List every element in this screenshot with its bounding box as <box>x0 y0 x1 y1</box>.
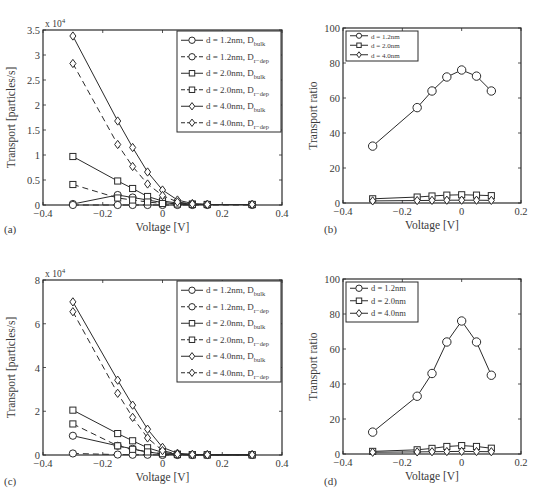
circle-marker-icon <box>368 428 376 436</box>
circle-marker-icon <box>428 369 436 377</box>
legend: d = 1.2nm, Dbulkd = 1.2nm, Dr−depd = 2.0… <box>177 281 281 382</box>
diamond-marker-icon <box>115 389 121 397</box>
y-tick-label: 40 <box>330 379 341 390</box>
x-axis-label: Voltage [V] <box>136 471 190 484</box>
legend-label-subscript: r−dep <box>254 373 269 380</box>
y-tick-label: 6 <box>35 319 40 330</box>
x-tick-label: 0 <box>160 458 165 469</box>
legend-label-subscript: bulk <box>254 356 266 363</box>
legend-label-subscript: bulk <box>254 73 266 80</box>
circle-marker-icon <box>443 338 451 346</box>
x-tick-label: −0.2 <box>93 208 112 219</box>
y-tick-label: 60 <box>330 93 341 104</box>
diamond-marker-icon <box>145 180 151 188</box>
y-axis-label: Transport [particles/s] <box>5 67 18 168</box>
circle-marker-icon <box>487 371 495 379</box>
legend: d = 1.2nm, Dbulkd = 1.2nm, Dr−depd = 2.0… <box>177 31 281 132</box>
y-tick-label: 4 <box>35 363 41 374</box>
panel-label: (c) <box>4 475 17 488</box>
circle-marker-icon <box>472 72 480 80</box>
y-tick-label: 3 <box>35 50 40 61</box>
square-marker-icon <box>356 298 361 303</box>
legend-label-subscript: r−dep <box>254 307 269 314</box>
data-series <box>368 317 495 437</box>
y-tick-label: 2.5 <box>27 75 40 86</box>
y-tick-label: 20 <box>330 414 341 425</box>
legend-label: d = 1.2nm <box>371 33 400 41</box>
circle-marker-icon <box>413 392 421 400</box>
square-marker-icon <box>130 446 136 452</box>
y-tick-label: 0 <box>35 450 40 461</box>
circle-marker-icon <box>472 338 480 346</box>
x-tick-label: −0.2 <box>393 457 412 468</box>
square-marker-icon <box>70 421 76 427</box>
square-marker-icon <box>115 431 121 437</box>
circle-marker-icon <box>189 304 195 310</box>
y-tick-label: 2 <box>35 100 40 111</box>
square-marker-icon <box>70 181 76 187</box>
series-line <box>373 70 492 146</box>
circle-marker-icon <box>457 66 465 74</box>
y-tick-label: 0 <box>335 198 340 209</box>
circle-marker-icon <box>114 451 121 458</box>
data-series <box>368 66 495 151</box>
circle-marker-icon <box>189 37 195 43</box>
square-marker-icon <box>130 185 136 191</box>
diamond-marker-icon <box>70 32 76 40</box>
circle-marker-icon <box>457 317 465 325</box>
square-marker-icon <box>145 199 151 205</box>
legend-label-subscript: r−dep <box>254 90 269 97</box>
chart-panel-a: −0.4−0.200.20.400.511.522.533.5x 104Volt… <box>4 17 289 236</box>
x-tick-label: 0.2 <box>216 458 229 469</box>
legend: d = 1.2nmd = 2.0nmd = 4.0nm <box>346 31 418 61</box>
y-multiplier: x 104 <box>45 17 66 29</box>
square-marker-icon <box>357 43 361 47</box>
x-tick-label: 0 <box>160 208 165 219</box>
y-axis-label: Transport ratio <box>307 81 320 150</box>
y-multiplier-exponent: 4 <box>62 17 66 25</box>
square-marker-icon <box>189 71 194 76</box>
y-tick-label: 80 <box>330 58 341 69</box>
circle-marker-icon <box>356 33 361 38</box>
circle-marker-icon <box>368 142 376 150</box>
x-tick-label: 0.2 <box>514 206 527 217</box>
panel-label: (b) <box>324 223 337 236</box>
x-tick-label: 0 <box>459 457 464 468</box>
x-axis-label: Voltage [V] <box>405 470 459 483</box>
y-tick-label: 0 <box>35 200 40 211</box>
diamond-marker-icon <box>115 140 121 148</box>
data-series <box>370 447 495 456</box>
circle-marker-icon <box>69 432 76 439</box>
data-series <box>370 196 495 205</box>
y-tick-label: 1.5 <box>27 125 40 136</box>
y-tick-label: 0 <box>335 449 340 460</box>
legend-label: d = 1.2nm <box>371 283 406 293</box>
y-tick-label: 80 <box>330 309 341 320</box>
square-marker-icon <box>189 337 194 342</box>
x-axis-label: Voltage [V] <box>136 221 190 234</box>
y-tick-label: 20 <box>330 163 341 174</box>
legend-label: d = 2.0nm <box>371 42 400 50</box>
y-tick-label: 3.5 <box>27 25 40 36</box>
y-axis-label: Transport ratio <box>307 332 320 401</box>
legend-label-subscript: bulk <box>254 106 266 113</box>
panel-label: (d) <box>324 475 337 488</box>
circle-marker-icon <box>356 285 362 291</box>
y-tick-label: 100 <box>324 274 340 285</box>
y-multiplier: x 104 <box>45 267 66 279</box>
legend-label-subscript: r−dep <box>254 340 269 347</box>
square-marker-icon <box>189 321 194 326</box>
legend-label: d = 4.0nm <box>371 308 406 318</box>
x-tick-label: 0 <box>459 206 464 217</box>
chart-panel-b: −0.4−0.200.2020406080100Voltage [V]Trans… <box>307 23 528 236</box>
circle-marker-icon <box>487 87 495 95</box>
square-marker-icon <box>145 449 151 455</box>
square-marker-icon <box>130 438 136 444</box>
x-tick-label: −0.2 <box>393 206 412 217</box>
circle-marker-icon <box>413 103 421 111</box>
x-tick-label: 0.2 <box>514 457 527 468</box>
circle-marker-icon <box>114 201 121 208</box>
circle-marker-icon <box>443 73 451 81</box>
chart-panel-d: −0.4−0.200.2020406080100Voltage [V]Trans… <box>307 274 528 488</box>
y-tick-label: 8 <box>35 275 40 286</box>
